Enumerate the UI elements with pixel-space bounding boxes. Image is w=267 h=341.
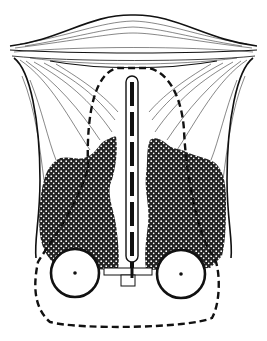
schematic-figure [0, 0, 267, 341]
right-circle [157, 250, 205, 298]
diagram-canvas: anatomical-schematic [0, 0, 267, 341]
central-rod [126, 76, 138, 268]
top-lens-band [10, 15, 257, 68]
left-circle [51, 249, 99, 297]
